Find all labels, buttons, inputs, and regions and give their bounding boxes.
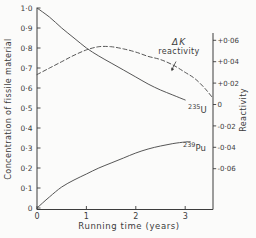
- left-axis-tick-label: 0·8: [21, 44, 33, 53]
- delta-k-annotation: ΔK reactivity: [146, 37, 212, 57]
- left-axis-tick-label: 0: [28, 204, 33, 213]
- right-axis-tick-label: -0·06: [218, 165, 237, 173]
- left-axis-tick-label: 0·3: [21, 144, 33, 153]
- left-axis-tick-label: 0·6: [21, 84, 33, 93]
- x-axis-tick-label: 3: [183, 212, 188, 221]
- x-axis-tick-label: 2: [133, 212, 138, 221]
- left-axis-tick-label: 0·4: [21, 124, 33, 133]
- left-axis-tick-label: 1·0: [21, 4, 33, 13]
- pu239-symbol: Pu: [195, 143, 205, 153]
- delta-k-annotation-text: reactivity: [146, 47, 212, 56]
- right-axis-tick-label: +0·04: [218, 58, 240, 66]
- u235-curve-label: 235U: [188, 96, 207, 112]
- left-axis-tick-label: 0·1: [21, 184, 33, 193]
- u235-symbol: U: [200, 105, 206, 115]
- x-axis-tick-label: 0: [34, 212, 39, 221]
- u235-mass-number: 235: [188, 103, 200, 111]
- right-axis-title: Reactivity: [239, 88, 248, 132]
- left-axis-tick-label: 0·5: [21, 104, 33, 113]
- delta-k-annotation-symbol: ΔK: [146, 37, 212, 47]
- plot-canvas: 00·10·20·30·40·50·60·70·80·91·00123+0·06…: [0, 0, 256, 238]
- right-axis-tick-label: -0·02: [218, 123, 236, 131]
- left-axis-tick-label: 0·9: [21, 24, 33, 33]
- x-axis-tick-label: 1: [84, 212, 89, 221]
- series-curve-pu: [37, 142, 190, 208]
- right-axis-tick-label: +0·06: [218, 37, 240, 45]
- pu239-mass-number: 239: [183, 141, 195, 149]
- right-axis-tick-label: -0·04: [218, 144, 237, 152]
- right-axis-tick-label: +0·02: [218, 80, 239, 88]
- left-axis-title: Concentration of fissile material: [4, 38, 13, 179]
- pu239-curve-label: 239Pu: [183, 134, 206, 150]
- right-axis-tick-label: 0: [218, 101, 222, 109]
- reactor-fissile-material-chart: 00·10·20·30·40·50·60·70·80·91·00123+0·06…: [0, 0, 256, 238]
- left-axis-tick-label: 0·7: [21, 64, 33, 73]
- x-axis-title: Running time (years): [78, 221, 179, 231]
- left-axis-tick-label: 0·2: [21, 164, 33, 173]
